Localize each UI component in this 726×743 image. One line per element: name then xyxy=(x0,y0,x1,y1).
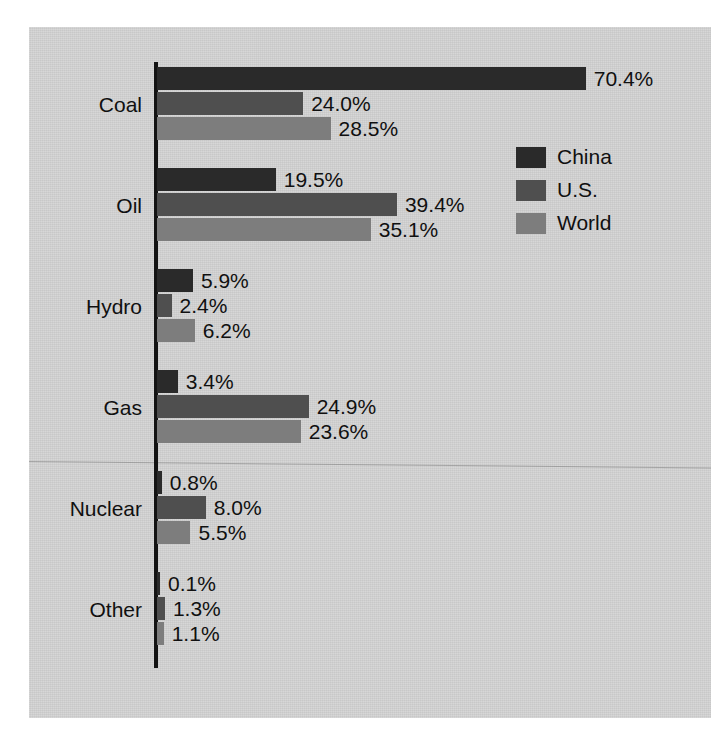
bar-coal-us xyxy=(157,92,303,115)
legend-label: China xyxy=(557,142,612,172)
category-label: Oil xyxy=(12,194,142,217)
legend-label: U.S. xyxy=(557,175,598,205)
bar-chart-plot-area: CoalOilHydroGasNuclearOther 70.4%24.0%28… xyxy=(0,0,726,743)
bar-value-label: 19.5% xyxy=(284,168,344,191)
bar-value-label: 1.3% xyxy=(173,597,221,620)
bar-value-label: 24.0% xyxy=(311,92,371,115)
bar-value-label: 1.1% xyxy=(172,622,220,645)
bar-gas-china xyxy=(157,370,178,393)
bar-value-label: 3.4% xyxy=(186,370,234,393)
bar-value-label: 23.6% xyxy=(309,420,369,443)
bar-coal-world xyxy=(157,117,331,140)
bar-gas-us xyxy=(157,395,309,418)
category-label: Hydro xyxy=(12,295,142,318)
bar-oil-world xyxy=(157,218,371,241)
legend-swatch-icon xyxy=(516,180,546,201)
legend-swatch-icon xyxy=(516,147,546,168)
bar-nuclear-china xyxy=(157,471,162,494)
bar-other-us xyxy=(157,597,165,620)
bar-nuclear-world xyxy=(157,521,190,544)
category-label: Gas xyxy=(12,396,142,419)
bar-hydro-us xyxy=(157,294,172,317)
bar-coal-china xyxy=(157,67,586,90)
bar-value-label: 0.1% xyxy=(168,572,216,595)
category-label: Nuclear xyxy=(12,497,142,520)
bar-value-label: 70.4% xyxy=(594,67,654,90)
chart-page: CoalOilHydroGasNuclearOther 70.4%24.0%28… xyxy=(0,0,726,743)
bar-value-label: 5.9% xyxy=(201,269,249,292)
category-label: Coal xyxy=(12,93,142,116)
bar-gas-world xyxy=(157,420,301,443)
bar-value-label: 6.2% xyxy=(203,319,251,342)
legend-label: World xyxy=(557,208,611,238)
bar-oil-us xyxy=(157,193,397,216)
bar-value-label: 24.9% xyxy=(317,395,377,418)
bar-nuclear-us xyxy=(157,496,206,519)
legend-swatch-icon xyxy=(516,213,546,234)
bar-other-world xyxy=(157,622,164,645)
bar-value-label: 5.5% xyxy=(198,521,246,544)
bar-value-label: 8.0% xyxy=(214,496,262,519)
bar-hydro-china xyxy=(157,269,193,292)
bar-value-label: 39.4% xyxy=(405,193,465,216)
bar-value-label: 35.1% xyxy=(379,218,439,241)
bar-oil-china xyxy=(157,168,276,191)
bar-hydro-world xyxy=(157,319,195,342)
bar-other-china xyxy=(157,572,160,595)
bar-value-label: 2.4% xyxy=(180,294,228,317)
bar-value-label: 0.8% xyxy=(170,471,218,494)
bar-value-label: 28.5% xyxy=(339,117,399,140)
category-label: Other xyxy=(12,598,142,621)
